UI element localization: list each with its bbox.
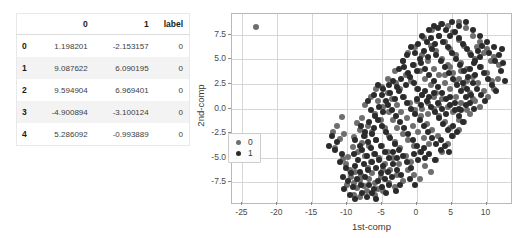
scatter-point [414,96,420,102]
scatter-point [350,144,356,150]
row-index: 4 [17,123,36,146]
scatter-point [439,21,445,27]
scatter-point [382,149,388,155]
plot-legend: 0 1 [228,133,261,163]
cell-col-label: 0 [155,123,190,146]
scatter-point [421,135,427,141]
table-row: 1 9.087622 6.090195 0 [17,57,190,79]
scatter-point [500,60,506,66]
x-tick-label: 10 [481,207,490,217]
scatter-point [400,153,406,159]
x-tick-mark [381,202,382,205]
x-tick-label: 0 [413,207,418,217]
scatter-point [425,111,431,117]
scatter-point [253,24,259,30]
column-header-label: label [155,14,190,35]
scatter-point [460,80,466,86]
legend-item: 1 [233,148,253,159]
scatter-point [403,82,409,88]
cell-col-label: 0 [155,101,190,123]
scatter-point [404,115,410,121]
plot-axes-area [231,13,512,204]
scatter-point [421,145,427,151]
scatter-point [357,143,363,149]
scatter-point [397,182,403,188]
scatter-point [477,104,483,110]
scatter-point [415,129,421,135]
scatter-point [352,163,358,169]
column-header-0: 0 [35,14,93,35]
scatter-point [436,33,442,39]
scatter-point [474,86,480,92]
scatter-point [435,100,441,106]
scatter-point [493,88,499,94]
scatter-point [361,161,367,167]
scatter-point [414,68,420,74]
scatter-point [446,149,452,155]
scatter-point [410,137,416,143]
scatter-point [443,111,449,117]
scatter-point [470,33,476,39]
cell-col-1: -3.100124 [94,101,155,123]
scatter-point [472,72,478,78]
y-tick-label: -5.0 [195,152,226,162]
scatter-point [495,76,501,82]
y-tick-mark [228,34,231,35]
x-tick-label: -20 [270,207,282,217]
scatter-point [502,78,508,84]
cell-col-1: -2.153157 [94,35,155,58]
scatter-point [410,123,416,129]
scatter-point [477,54,483,60]
cell-col-1: 6.969401 [94,79,155,101]
scatter-point [352,196,358,202]
scatter-point [394,125,400,131]
scatter-point [467,111,473,117]
scatter-point [439,90,445,96]
cell-col-label: 0 [155,79,190,101]
scatter-point [386,155,392,161]
legend-marker-icon [236,140,241,145]
cell-col-0: 1.198201 [35,35,93,58]
scatter-point [389,174,395,180]
x-tick-label: 5 [448,207,453,217]
scatter-point [355,157,361,163]
legend-label: 0 [248,137,253,148]
cell-col-1: -0.993889 [94,123,155,146]
scatter-point [375,98,381,104]
scatter-point [364,153,370,159]
scatter-point [364,194,370,200]
scatter-point [458,107,464,113]
scatter-point [463,102,469,108]
scatter-point [442,143,448,149]
scatter-point [390,149,396,155]
row-index: 2 [17,79,36,101]
scatter-point [431,78,437,84]
scatter-point [379,92,385,98]
scatter-point [405,131,411,137]
scatter-point [373,137,379,143]
scatter-point [343,165,349,171]
table-header-row: 0 1 label [17,14,190,35]
row-index: 3 [17,101,36,123]
scatter-point [337,159,343,165]
y-axis-label: 2nd-comp [195,66,206,146]
x-tick-mark [346,202,347,205]
y-tick-mark [228,108,231,109]
scatter-point [478,92,484,98]
scatter-point [482,98,488,104]
scatter-point [339,114,345,120]
scatter-point [477,33,483,39]
column-header-index [17,14,36,35]
scatter-point [390,161,396,167]
x-tick-mark [241,202,242,205]
scatter-point [456,23,462,29]
scatter-point [428,35,434,41]
scatter-point [463,19,469,25]
gridline-horizontal [232,59,511,60]
dataframe-container: 0 1 label 0 1.198201 -2.153157 0 1 9.087… [16,13,190,146]
scatter-point [468,92,474,98]
scatter-point [373,196,379,202]
scatter-point [329,133,335,139]
scatter-point [464,86,470,92]
scatter-point [396,66,402,72]
